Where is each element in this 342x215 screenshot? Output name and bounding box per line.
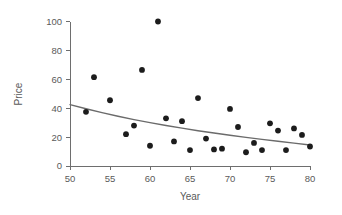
data-point (267, 120, 273, 126)
axes (70, 22, 310, 167)
data-point (91, 74, 97, 80)
y-tick-label: 0 (57, 160, 62, 171)
data-point (283, 147, 289, 153)
plot-canvas: 020406080100 50556065707580 Year Price (0, 0, 342, 215)
x-tick-label: 80 (305, 173, 316, 184)
data-point (139, 67, 145, 73)
x-axis-title: Year (180, 191, 201, 202)
data-point (187, 147, 193, 153)
y-axis-title: Price (13, 82, 24, 105)
x-tick-label: 50 (65, 173, 76, 184)
data-point (107, 97, 113, 103)
data-point (203, 136, 209, 142)
y-tick-label: 60 (51, 74, 62, 85)
x-tick-label: 70 (225, 173, 236, 184)
data-point (83, 109, 89, 115)
scatter-plot-figure: 020406080100 50556065707580 Year Price (0, 0, 342, 215)
data-point (155, 19, 161, 25)
data-point (147, 143, 153, 149)
data-point (243, 149, 249, 155)
x-tick-label: 75 (265, 173, 276, 184)
x-tick-label: 60 (145, 173, 156, 184)
data-point (275, 128, 281, 134)
y-tick-label: 40 (51, 103, 62, 114)
data-point (235, 124, 241, 130)
data-point (179, 118, 185, 124)
y-tick-label: 100 (46, 16, 62, 27)
data-point (251, 140, 257, 146)
fitted-trend-line (70, 105, 310, 145)
x-tick-label: 65 (185, 173, 196, 184)
y-axis-ticks: 020406080100 (46, 16, 70, 172)
data-point (227, 106, 233, 112)
data-point (259, 147, 265, 153)
data-point (123, 131, 129, 137)
x-tick-label: 55 (105, 173, 116, 184)
data-point (171, 139, 177, 145)
data-point (299, 132, 305, 138)
trend-line-group (70, 105, 310, 145)
data-point (195, 95, 201, 101)
data-point (307, 144, 313, 150)
data-point (131, 123, 137, 129)
y-tick-label: 80 (51, 45, 62, 56)
data-point (211, 146, 217, 152)
data-point (219, 146, 225, 152)
data-point (291, 126, 297, 132)
x-axis-ticks: 50556065707580 (65, 166, 316, 184)
y-tick-label: 20 (51, 132, 62, 143)
data-points-group (83, 19, 313, 156)
data-point (163, 115, 169, 121)
